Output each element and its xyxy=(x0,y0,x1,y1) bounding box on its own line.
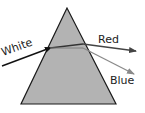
prism xyxy=(21,8,116,104)
blue-label: Blue xyxy=(110,74,135,87)
red-label: Red xyxy=(98,33,119,46)
prism-diagram: White Red Blue xyxy=(0,0,145,113)
